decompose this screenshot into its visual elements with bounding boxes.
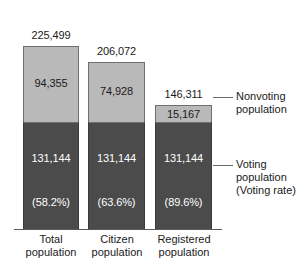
bar-segment-voting: 131,144 (58.2%) xyxy=(23,122,79,229)
segment-value-label: 131,144 xyxy=(24,152,78,164)
category-label-line2: population xyxy=(145,246,223,259)
bar-segment-nonvoting: 94,355 xyxy=(23,46,79,122)
segment-value-label: 131,144 xyxy=(156,152,211,164)
bar-segment-voting: 131,144 (63.6%) xyxy=(88,122,145,229)
bar-total-value-label: 206,072 xyxy=(88,45,145,57)
bar-registered-population: 146,311 15,167 131,144 (89.6%) xyxy=(155,105,212,229)
category-label-line1: Registered xyxy=(145,233,223,246)
legend-label-line2: population xyxy=(236,103,287,116)
bar-segment-nonvoting: 15,167 xyxy=(155,105,212,122)
leader-line-nonvoting xyxy=(213,97,233,98)
segment-value-label: 131,144 xyxy=(89,152,144,164)
legend-label-line3: (Voting rate) xyxy=(236,184,296,197)
bar-total-population: 225,499 94,355 131,144 (58.2%) xyxy=(23,46,79,229)
bar-segment-voting: 131,144 (89.6%) xyxy=(155,122,212,229)
bar-citizen-population: 206,072 74,928 131,144 (63.6%) xyxy=(88,62,145,229)
segment-rate-label: (89.6%) xyxy=(156,196,211,208)
leader-line-voting xyxy=(213,165,233,166)
bar-total-value-label: 225,499 xyxy=(23,29,79,41)
legend-label-line1: Nonvoting xyxy=(236,90,287,103)
segment-rate-label: (63.6%) xyxy=(89,196,144,208)
segment-rate-label: (58.2%) xyxy=(24,196,78,208)
bar-segment-nonvoting: 74,928 xyxy=(88,62,145,122)
legend-nonvoting-population: Nonvoting population xyxy=(236,90,287,116)
bar-total-value-label: 146,311 xyxy=(155,88,212,100)
segment-value-label: 15,167 xyxy=(156,108,211,120)
segment-value-label: 74,928 xyxy=(89,85,144,97)
x-axis-line xyxy=(14,229,222,230)
stacked-bar-chart: 225,499 94,355 131,144 (58.2%) 206,072 7… xyxy=(0,0,307,275)
category-label-registered: Registered population xyxy=(145,233,223,259)
legend-label-line2: population xyxy=(236,171,296,184)
legend-label-line1: Voting xyxy=(236,158,296,171)
segment-value-label: 94,355 xyxy=(24,77,78,89)
legend-voting-population: Voting population (Voting rate) xyxy=(236,158,296,197)
